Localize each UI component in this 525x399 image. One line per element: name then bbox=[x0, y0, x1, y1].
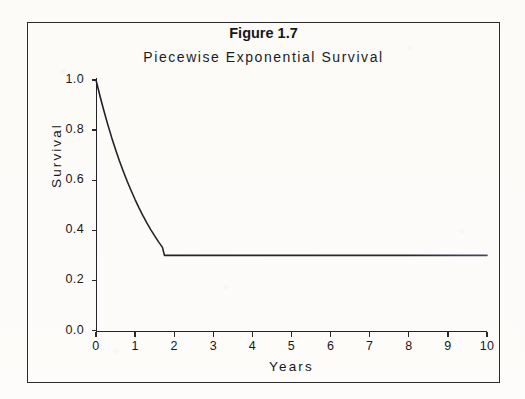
figure-page: Figure 1.7 Piecewise Exponential Surviva… bbox=[0, 0, 525, 399]
figure-title: Figure 1.7 bbox=[27, 25, 500, 42]
chart-subtitle: Piecewise Exponential Survival bbox=[27, 49, 500, 66]
figure-border bbox=[27, 22, 500, 383]
